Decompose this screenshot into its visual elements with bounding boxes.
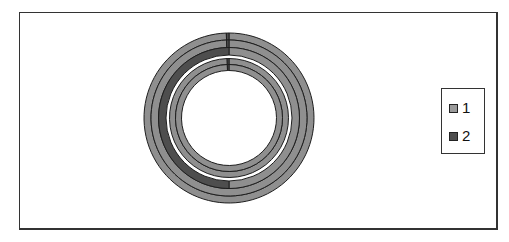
ring-4-segment-2 (227, 59, 229, 65)
ring-1-segment-2 (226, 33, 229, 40)
ring-4-segment-1 (169, 59, 288, 178)
legend: 1 2 (441, 88, 485, 154)
legend-swatch-2 (449, 132, 458, 141)
legend-label-2: 2 (462, 129, 470, 143)
ring-5-segment-2 (227, 65, 229, 71)
legend-swatch-1 (449, 104, 458, 113)
legend-item-1: 1 (449, 101, 470, 115)
legend-item-2: 2 (449, 129, 470, 143)
legend-label-1: 1 (462, 101, 470, 115)
ring-2-segment-2 (227, 40, 229, 48)
doughnut-plot (0, 0, 509, 242)
ring-5-segment-1 (175, 65, 282, 172)
